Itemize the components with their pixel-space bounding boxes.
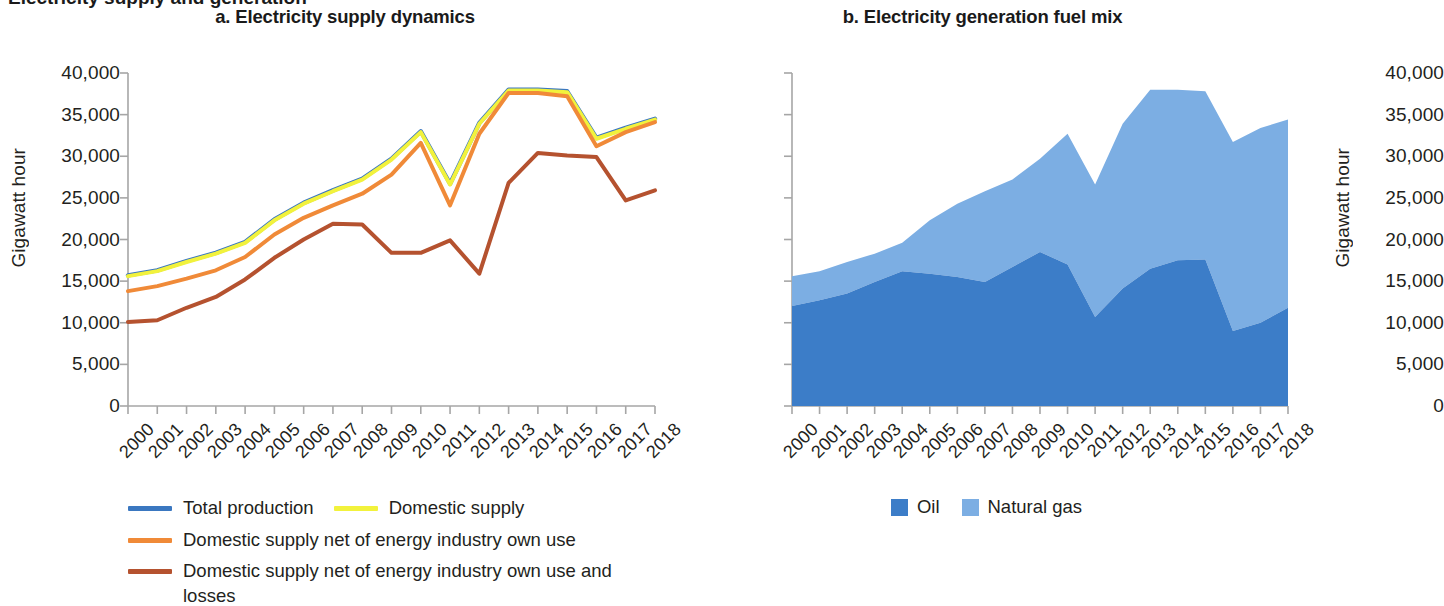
y-tick-label: 25,000: [1385, 187, 1444, 209]
legend-item[interactable]: Oil: [891, 496, 940, 518]
legend-color-swatch-line-icon: [128, 506, 172, 511]
legend-color-swatch-line-icon: [334, 506, 378, 511]
legend-item-label: Oil: [917, 496, 940, 518]
line-series-0: [128, 90, 655, 276]
panel-b-stacked-area-chart: [660, 0, 1295, 430]
legend-row: Domestic supply net of energy industry o…: [128, 528, 658, 553]
legend-item[interactable]: Domestic supply net of energy industry o…: [128, 528, 576, 553]
y-tick-label: 20,000: [1385, 229, 1444, 251]
y-tick-label: 5,000: [1396, 353, 1444, 375]
legend-item[interactable]: Natural gas: [962, 496, 1083, 518]
panel-b-electricity-generation-fuel-mix: b. Electricity generation fuel mix Gigaw…: [660, 0, 1295, 596]
legend-item[interactable]: Domestic supply net of energy industry o…: [128, 559, 653, 606]
legend-color-swatch-box-icon: [962, 499, 979, 516]
legend-item-label: Domestic supply net of energy industry o…: [183, 559, 653, 606]
panel-a-plot-area: Gigawatt hour 05,00010,00015,00020,00025…: [0, 0, 660, 430]
panel-b-y-axis-ticks: 05,00010,00015,00020,00025,00030,00035,0…: [1352, 0, 1444, 430]
legend-item-label: Natural gas: [988, 496, 1083, 518]
legend-item[interactable]: Total production: [128, 496, 314, 521]
legend-item-label: Total production: [183, 496, 314, 521]
y-tick-label: 0: [1433, 395, 1444, 417]
line-series-2: [128, 93, 655, 291]
legend-row: Domestic supply net of energy industry o…: [128, 559, 658, 606]
legend-item-label: Domestic supply net of energy industry o…: [183, 528, 576, 553]
panel-a-legend: Total productionDomestic supplyDomestic …: [128, 496, 658, 606]
y-tick-label: 10,000: [1385, 312, 1444, 334]
panel-a-electricity-supply-dynamics: Electricity supply and generation a. Ele…: [0, 0, 660, 596]
legend-color-swatch-line-icon: [128, 538, 172, 543]
panel-a-line-chart: [0, 0, 660, 430]
y-tick-label: 15,000: [1385, 270, 1444, 292]
legend-color-swatch-line-icon: [128, 569, 172, 574]
panel-b-legend: OilNatural gas: [660, 496, 1295, 518]
y-tick-label: 40,000: [1385, 62, 1444, 84]
legend-item-label: Domestic supply: [389, 496, 525, 521]
panel-b-plot-area: Gigawatt hour 05,00010,00015,00020,00025…: [660, 0, 1295, 430]
legend-row: Total productionDomestic supply: [128, 496, 658, 521]
legend-color-swatch-box-icon: [891, 499, 908, 516]
panel-b-y-axis-title: Gigawatt hour: [1332, 148, 1354, 268]
line-series-1: [128, 90, 655, 276]
line-series-3: [128, 153, 655, 322]
y-tick-label: 35,000: [1385, 104, 1444, 126]
y-tick-label: 30,000: [1385, 145, 1444, 167]
legend-item[interactable]: Domestic supply: [334, 496, 525, 521]
